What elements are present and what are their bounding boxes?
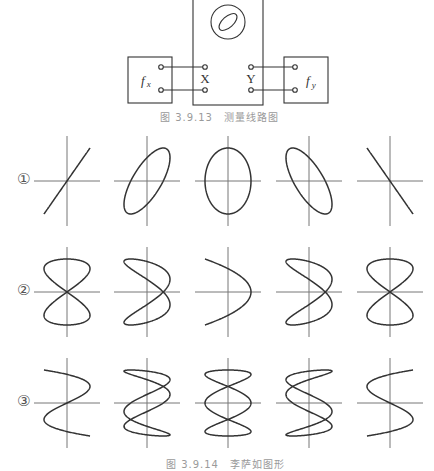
terminals <box>159 65 298 93</box>
lissajous-figure <box>357 358 423 448</box>
lissajous-figure <box>357 247 423 337</box>
y-input-label: Y <box>246 71 256 86</box>
lissajous-figure <box>276 136 342 226</box>
terminal-fy-bottom <box>293 88 298 93</box>
terminal-x-top <box>203 65 208 70</box>
lissajous-figure <box>357 136 423 226</box>
lissajous-figure <box>276 358 342 448</box>
fx-label: fx <box>141 73 151 89</box>
row-label-2: ② <box>17 281 30 299</box>
fy-label: fy <box>306 73 316 90</box>
oscilloscope <box>128 0 328 105</box>
screen-ellipse-trace <box>216 11 240 34</box>
lissajous-figure <box>34 136 100 226</box>
x-input-label: X <box>200 71 210 86</box>
lissajous-figure <box>114 247 180 337</box>
lissajous-caption: 图 3.9.14 李萨如图形 <box>166 456 285 471</box>
row-label-1: ① <box>17 170 30 188</box>
lissajous-figure <box>195 136 261 226</box>
terminal-y-bottom <box>249 88 254 93</box>
circuit-caption: 图 3.9.13 测量线路图 <box>160 109 279 124</box>
terminal-x-bottom <box>203 88 208 93</box>
lissajous-figure <box>114 358 180 448</box>
lissajous-figure <box>34 358 100 448</box>
oscilloscope-screen <box>211 5 245 39</box>
terminal-fx-top <box>159 65 164 70</box>
lissajous-figure <box>114 136 180 226</box>
lissajous-figure <box>195 358 261 448</box>
row-label-3: ③ <box>17 392 30 410</box>
terminal-fx-bottom <box>159 88 164 93</box>
lissajous-figure <box>34 247 100 337</box>
lissajous-figure <box>276 247 342 337</box>
lissajous-figure <box>195 247 261 337</box>
lissajous-grid <box>34 136 423 448</box>
terminal-y-top <box>249 65 254 70</box>
terminal-fy-top <box>293 65 298 70</box>
